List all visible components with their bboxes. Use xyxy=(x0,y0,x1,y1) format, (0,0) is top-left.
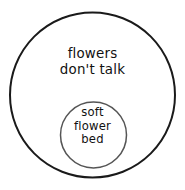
outer-set-label-line-2: don't talk xyxy=(0,62,185,78)
inner-set-label-line-3: bed xyxy=(0,133,185,147)
inner-set-label-line-1: soft xyxy=(0,106,185,120)
outer-set-label: flowers don't talk xyxy=(0,46,185,77)
diagram-canvas: flowers don't talk soft flower bed xyxy=(0,0,185,190)
nested-circle-diagram xyxy=(0,0,185,190)
outer-set-circle xyxy=(10,13,175,178)
outer-set-label-line-1: flowers xyxy=(0,46,185,62)
inner-set-label: soft flower bed xyxy=(0,106,185,147)
inner-set-label-line-2: flower xyxy=(0,120,185,134)
